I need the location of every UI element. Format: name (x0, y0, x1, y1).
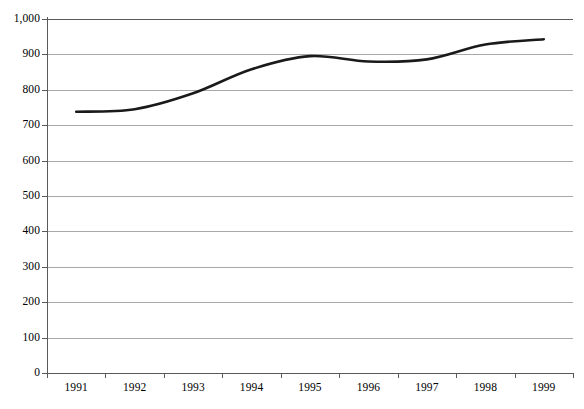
y-axis-label-wrap: 200 (0, 296, 40, 308)
y-axis-label: 100 (0, 332, 40, 344)
gridline-500 (47, 196, 573, 197)
x-tick (456, 373, 457, 378)
x-axis-label: 1995 (280, 381, 340, 393)
x-axis-label: 1992 (105, 381, 165, 393)
y-axis-label-wrap: 700 (0, 119, 40, 131)
x-axis-line (45, 373, 574, 374)
y-axis-label: 200 (0, 296, 40, 308)
y-axis-label-wrap: 900 (0, 48, 40, 60)
y-axis-label-wrap: 600 (0, 155, 40, 167)
series-line (76, 39, 544, 112)
y-axis-label-wrap: 800 (0, 84, 40, 96)
gridline-800 (47, 90, 573, 91)
y-axis-label: 500 (0, 190, 40, 202)
gridline-200 (47, 302, 573, 303)
y-axis-label-wrap: 300 (0, 261, 40, 273)
x-axis-label: 1998 (455, 381, 515, 393)
y-axis-label: 1,000 (0, 13, 40, 25)
x-tick (281, 373, 282, 378)
y-axis-label-wrap: 400 (0, 225, 40, 237)
x-tick (515, 373, 516, 378)
y-axis-label-wrap: 500 (0, 190, 40, 202)
x-axis-label: 1997 (397, 381, 457, 393)
x-axis-label: 1994 (222, 381, 282, 393)
gridline-300 (47, 267, 573, 268)
gridline-700 (47, 125, 573, 126)
gridline-1000 (47, 19, 573, 20)
y-axis-label: 300 (0, 261, 40, 273)
y-axis-line (47, 17, 48, 375)
y-axis-label: 700 (0, 119, 40, 131)
gridline-400 (47, 231, 573, 232)
x-tick (222, 373, 223, 378)
y-axis-label: 0 (0, 367, 40, 379)
y-axis-label: 600 (0, 155, 40, 167)
x-axis-label: 1991 (46, 381, 106, 393)
y-axis-label-wrap: 0 (0, 367, 40, 379)
x-axis-label: 1993 (163, 381, 223, 393)
gridline-100 (47, 338, 573, 339)
x-tick (164, 373, 165, 378)
gridline-600 (47, 161, 573, 162)
y-axis-label-wrap: 1,000 (0, 13, 40, 25)
x-tick (339, 373, 340, 378)
y-axis-label: 400 (0, 225, 40, 237)
y-axis-label-wrap: 100 (0, 332, 40, 344)
gridline-900 (47, 54, 573, 55)
x-tick (47, 373, 48, 378)
series-layer (0, 0, 584, 409)
y-axis-label: 900 (0, 48, 40, 60)
x-tick (105, 373, 106, 378)
x-tick (573, 373, 574, 378)
x-axis-label: 1999 (514, 381, 574, 393)
line-chart: 01002003004005006007008009001,000 199119… (0, 0, 584, 409)
y-axis-label: 800 (0, 84, 40, 96)
x-tick (398, 373, 399, 378)
x-axis-label: 1996 (338, 381, 398, 393)
